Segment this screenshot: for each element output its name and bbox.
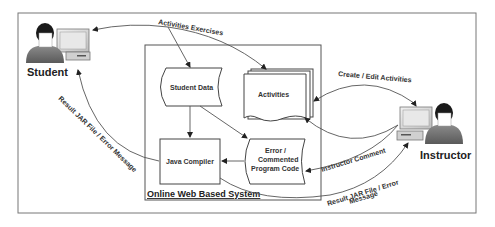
student-data-label: Student Data <box>170 84 213 91</box>
error-code-line3: Program Code <box>251 165 299 173</box>
edge-create-edit-activities <box>314 85 414 103</box>
system-diagram: Online Web Based System Student Instr <box>0 0 495 227</box>
student-data-node: Student Data <box>161 68 223 106</box>
edge-activities-exercises-to-student <box>93 25 168 30</box>
activities-node: Activities <box>244 69 313 121</box>
edge-instructor-to-activities <box>305 118 398 138</box>
error-code-line2: Commented <box>258 156 298 163</box>
edge-create-edit-activities-start <box>414 103 416 106</box>
edge-label-instructor-comment: Instructor Comment <box>320 147 387 173</box>
java-compiler-label: Java Compiler <box>166 158 214 166</box>
student-label: Student <box>27 66 68 78</box>
student-actor: Student <box>26 23 90 78</box>
activities-label: Activities <box>258 91 289 98</box>
edge-result-to-student <box>78 70 159 161</box>
error-code-node: Error / Commented Program Code <box>245 139 305 184</box>
edge-label-result-instructor-line1: Result JAR File / Error <box>326 178 399 206</box>
java-compiler-node: Java Compiler <box>160 139 220 184</box>
edge-label-create-edit: Create / Edit Activities <box>338 70 412 83</box>
edge-activities-exercises-to-student-data <box>168 27 190 67</box>
edge-student-data-to-error <box>200 106 247 138</box>
error-code-line1: Error / <box>265 147 286 154</box>
system-label: Online Web Based System <box>147 189 260 199</box>
instructor-actor: Instructor <box>397 103 472 161</box>
instructor-label: Instructor <box>420 149 472 161</box>
edge-label-result-student: Result JAR File / Error Message <box>57 95 139 174</box>
